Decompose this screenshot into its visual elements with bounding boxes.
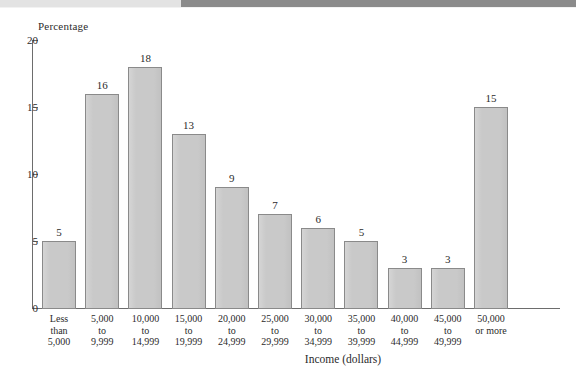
x-axis-title: Income (dollars) bbox=[0, 353, 576, 365]
y-tick: 20 bbox=[0, 40, 38, 41]
bar-value-label: 15 bbox=[466, 93, 516, 104]
y-tick-label: 20 bbox=[12, 35, 38, 46]
y-tick-label: 0 bbox=[12, 303, 38, 314]
bar bbox=[388, 268, 422, 309]
y-tick: 5 bbox=[0, 241, 38, 242]
x-category-label: 30,000 to 34,999 bbox=[295, 313, 341, 348]
bar bbox=[431, 268, 465, 309]
bar bbox=[301, 228, 335, 309]
bar-value-label: 6 bbox=[293, 214, 343, 225]
x-category-label: 45,000 to 49,999 bbox=[425, 313, 471, 348]
x-category-label: 35,000 to 39,999 bbox=[338, 313, 384, 348]
x-category-label: 5,000 to 9,999 bbox=[79, 313, 125, 348]
x-category-label: 25,000 to 29,999 bbox=[252, 313, 298, 348]
y-tick: 0 bbox=[0, 308, 38, 309]
y-tick-label: 10 bbox=[12, 169, 38, 180]
bar-value-label: 5 bbox=[336, 227, 386, 238]
bar-value-label: 16 bbox=[77, 80, 127, 91]
bar-value-label: 9 bbox=[207, 173, 257, 184]
bar bbox=[128, 67, 162, 309]
bar bbox=[474, 107, 508, 309]
y-tick: 10 bbox=[0, 174, 38, 175]
bar-chart: Percentage 05101520 516181397653315 Less… bbox=[0, 0, 576, 383]
x-category-label: 50,000 or more bbox=[468, 313, 514, 336]
bar bbox=[172, 134, 206, 309]
x-category-label: 40,000 to 44,999 bbox=[382, 313, 428, 348]
x-category-label: 10,000 to 14,999 bbox=[122, 313, 168, 348]
x-category-label: 20,000 to 24,999 bbox=[209, 313, 255, 348]
y-axis-title: Percentage bbox=[38, 20, 88, 32]
bar bbox=[215, 187, 249, 309]
x-category-label: Less than 5,000 bbox=[36, 313, 82, 348]
bar-value-label: 7 bbox=[250, 200, 300, 211]
y-tick: 15 bbox=[0, 107, 38, 108]
bar-value-label: 13 bbox=[164, 120, 214, 131]
bar bbox=[85, 94, 119, 309]
bar bbox=[344, 241, 378, 309]
bar-value-label: 5 bbox=[34, 227, 84, 238]
bar-value-label: 18 bbox=[120, 53, 170, 64]
bar bbox=[42, 241, 76, 309]
x-category-label: 15,000 to 19,999 bbox=[166, 313, 212, 348]
bar bbox=[258, 214, 292, 309]
bar-value-label: 3 bbox=[423, 254, 473, 265]
y-tick-label: 15 bbox=[12, 102, 38, 113]
